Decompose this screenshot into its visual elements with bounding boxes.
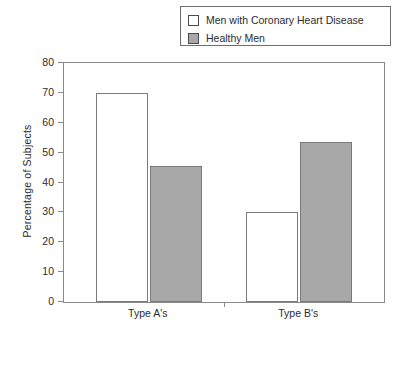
legend-item-healthy: Healthy Men: [188, 30, 384, 46]
gray-square-swatch-icon: [188, 33, 199, 44]
y-axis-title: Percentage of Subjects: [21, 101, 33, 261]
bar-coronary-0: [96, 93, 148, 302]
bar-chart: Men with Coronary Heart Disease Healthy …: [0, 0, 398, 368]
legend-item-coronary: Men with Coronary Heart Disease: [188, 12, 384, 28]
y-axis-tick-label: 20: [42, 235, 54, 247]
y-axis-tick-label: 80: [42, 56, 54, 68]
y-axis-tick-label: 30: [42, 205, 54, 217]
y-axis-tick-label: 40: [42, 176, 54, 188]
y-axis-tick-label: 70: [42, 86, 54, 98]
x-axis-center-tick: [224, 302, 225, 307]
x-axis-category-label: Type B's: [278, 307, 318, 319]
chart-legend: Men with Coronary Heart Disease Healthy …: [180, 6, 391, 46]
plot-area: 01020304050607080: [63, 62, 385, 303]
x-axis-category-label: Type A's: [128, 307, 167, 319]
y-axis-tick-mark: [58, 182, 64, 183]
y-axis-tick-mark: [58, 241, 64, 242]
y-axis-tick-mark: [58, 152, 64, 153]
legend-label-coronary: Men with Coronary Heart Disease: [206, 14, 364, 26]
y-axis-tick-mark: [58, 122, 64, 123]
y-axis-tick-mark: [58, 62, 64, 63]
y-axis-tick-label: 50: [42, 146, 54, 158]
y-axis-tick-label: 60: [42, 116, 54, 128]
y-axis-tick-label: 10: [42, 265, 54, 277]
bar-healthy-1: [300, 142, 352, 302]
y-axis-tick-mark: [58, 211, 64, 212]
y-axis-tick-mark: [58, 271, 64, 272]
y-axis-tick-label: 0: [48, 295, 54, 307]
bar-coronary-1: [246, 212, 298, 302]
bar-healthy-0: [150, 166, 202, 302]
y-axis-tick-mark: [58, 92, 64, 93]
y-axis-tick-mark: [58, 301, 64, 302]
white-square-swatch-icon: [188, 15, 199, 26]
legend-label-healthy: Healthy Men: [206, 32, 265, 44]
